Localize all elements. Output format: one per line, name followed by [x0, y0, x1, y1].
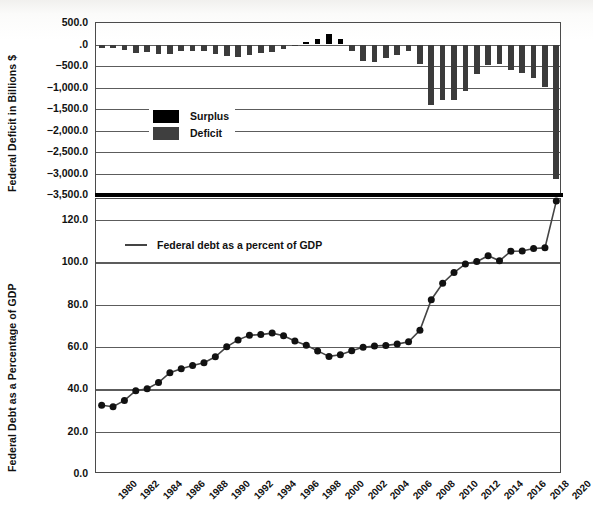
- data-point-2014: [485, 252, 492, 259]
- deficit-bar-1982: [122, 45, 128, 51]
- deficit-bar-2010: [440, 45, 446, 101]
- x-tick-2010: 2010: [456, 478, 480, 502]
- data-point-1986: [166, 369, 173, 376]
- deficit-bar-2003: [360, 45, 366, 61]
- x-tick-1988: 1988: [206, 478, 230, 502]
- top-chart-y-tick: −2,500.0: [0, 145, 88, 157]
- deficit-bar-1980: [99, 45, 105, 48]
- deficit-bar-1983: [133, 45, 139, 54]
- data-point-2003: [360, 344, 367, 351]
- legend-label-surplus: Surplus: [190, 110, 229, 122]
- bottom-chart-y-tick: 100.0: [0, 255, 88, 267]
- x-tick-2004: 2004: [388, 478, 412, 502]
- deficit-bar-2014: [485, 45, 491, 66]
- line-swatch-icon: [125, 244, 147, 246]
- data-point-1981: [110, 403, 117, 410]
- top-chart-y-tick: −3,500.0: [0, 188, 88, 200]
- deficit-bar-2016: [508, 45, 514, 70]
- data-point-2015: [496, 257, 503, 264]
- bottom-chart-y-tick: 40.0: [0, 382, 88, 394]
- legend-item-deficit: Deficit: [153, 125, 229, 141]
- data-point-1988: [189, 362, 196, 369]
- x-tick-2014: 2014: [502, 478, 526, 502]
- data-point-1997: [291, 337, 298, 344]
- data-point-2006: [394, 341, 401, 348]
- data-point-1987: [178, 365, 185, 372]
- top-chart-y-tick: −2,000.0: [0, 124, 88, 136]
- top-chart-legend: Surplus Deficit: [149, 104, 235, 145]
- data-point-1998: [303, 342, 310, 349]
- deficit-bar-2005: [383, 45, 389, 59]
- bottom-chart-y-tick: 80.0: [0, 298, 88, 310]
- chart-separator-bar: [95, 193, 563, 197]
- deficit-bar-2017: [519, 45, 525, 74]
- deficit-bar-2019: [542, 45, 548, 87]
- top-chart-y-tick: −1,500.0: [0, 102, 88, 114]
- data-point-1993: [246, 332, 253, 339]
- x-tick-1980: 1980: [115, 478, 139, 502]
- deficit-bar-2008: [417, 45, 423, 65]
- deficit-swatch-icon: [153, 127, 179, 140]
- x-tick-2016: 2016: [524, 478, 548, 502]
- x-tick-1998: 1998: [320, 478, 344, 502]
- data-point-2010: [439, 280, 446, 287]
- bottom-chart-y-tick: 120.0: [0, 213, 88, 225]
- data-point-2018: [530, 245, 537, 252]
- x-tick-1984: 1984: [161, 478, 185, 502]
- data-point-2002: [348, 347, 355, 354]
- data-point-2012: [462, 260, 469, 267]
- data-point-2004: [371, 343, 378, 350]
- deficit-bar-2002: [349, 45, 355, 52]
- deficit-bar-1993: [247, 45, 253, 56]
- bottom-chart-legend: Federal debt as a percent of GDP: [120, 237, 327, 253]
- x-tick-2020: 2020: [570, 478, 593, 502]
- x-tick-1986: 1986: [183, 478, 207, 502]
- data-point-2017: [519, 248, 526, 255]
- bottom-chart-y-tick: 0.0: [0, 467, 88, 479]
- x-tick-1992: 1992: [252, 478, 276, 502]
- deficit-bar-1994: [258, 45, 264, 54]
- deficit-bar-2012: [463, 45, 469, 92]
- data-point-2007: [405, 338, 412, 345]
- deficit-bar-1984: [144, 45, 150, 53]
- x-tick-2006: 2006: [411, 478, 435, 502]
- federal-deficit-debt-figure: Federal Deficit in Billions $ 500.0.0−50…: [0, 0, 593, 515]
- deficit-bar-1988: [190, 45, 196, 52]
- x-tick-1982: 1982: [138, 478, 162, 502]
- gridline: [96, 174, 560, 175]
- data-point-1983: [132, 387, 139, 394]
- data-point-2005: [382, 342, 389, 349]
- x-tick-2002: 2002: [365, 478, 389, 502]
- top-chart-y-tick: 500.0: [0, 16, 88, 28]
- deficit-bar-2004: [372, 45, 378, 63]
- data-point-1992: [235, 336, 242, 343]
- data-point-1999: [314, 347, 321, 354]
- surplus-bar-1999: [315, 39, 321, 44]
- deficit-bar-2015: [497, 45, 503, 64]
- deficit-bar-1992: [235, 45, 241, 57]
- deficit-bar-1981: [110, 45, 116, 48]
- x-tick-2012: 2012: [479, 478, 503, 502]
- legend-label-federal-debt: Federal debt as a percent of GDP: [157, 239, 322, 251]
- surplus-bar-2000: [326, 34, 332, 44]
- data-point-2019: [541, 244, 548, 251]
- data-point-1996: [280, 332, 287, 339]
- data-point-1995: [269, 330, 276, 337]
- top-chart-y-tick: .0: [0, 38, 88, 50]
- deficit-bar-1991: [224, 45, 230, 57]
- data-point-1989: [200, 359, 207, 366]
- data-point-2001: [337, 351, 344, 358]
- data-point-2008: [416, 327, 423, 334]
- data-point-1991: [223, 343, 230, 350]
- deficit-bar-1986: [167, 45, 173, 55]
- x-tick-1996: 1996: [297, 478, 321, 502]
- top-chart-y-tick: −500.0: [0, 59, 88, 71]
- deficit-bar-1989: [201, 45, 207, 52]
- deficit-bar-1990: [213, 45, 219, 55]
- data-point-2009: [428, 296, 435, 303]
- data-point-1984: [144, 385, 151, 392]
- deficit-bar-2018: [531, 45, 537, 78]
- bottom-chart-y-tick: 60.0: [0, 340, 88, 352]
- surplus-bar-1998: [303, 42, 309, 45]
- bottom-chart-y-tick: 20.0: [0, 425, 88, 437]
